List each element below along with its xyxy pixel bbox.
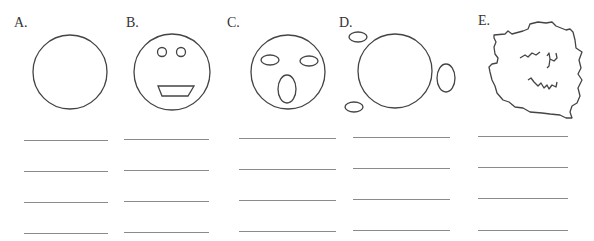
answer-line-d-4[interactable] <box>353 230 450 231</box>
displaced-mouth <box>437 64 455 92</box>
label-c: C. <box>227 16 240 30</box>
answer-line-e-1[interactable] <box>478 136 568 137</box>
left-eye <box>261 55 279 65</box>
scribble-1 <box>520 52 540 58</box>
answer-line-a-1[interactable] <box>24 140 108 141</box>
left-eye <box>158 48 167 57</box>
figure-b-smiling-face <box>134 34 210 110</box>
answer-line-b-3[interactable] <box>124 201 209 202</box>
answer-line-c-2[interactable] <box>239 169 336 170</box>
displaced-eye-bottom <box>345 102 363 112</box>
label-b: B. <box>126 16 139 30</box>
answer-line-a-3[interactable] <box>24 202 108 203</box>
answer-line-c-1[interactable] <box>239 138 336 139</box>
answer-line-a-2[interactable] <box>24 171 108 172</box>
blob-outline <box>489 22 582 118</box>
scribble-3 <box>528 78 557 89</box>
figure-d-scattered-features <box>345 32 455 112</box>
answer-line-b-1[interactable] <box>124 139 209 140</box>
face-outline <box>358 34 432 108</box>
face-matching-worksheet: A. B. C. D. E. <box>0 0 594 241</box>
answer-line-c-3[interactable] <box>239 200 336 201</box>
answer-line-a-4[interactable] <box>24 233 108 234</box>
label-a: A. <box>14 16 28 30</box>
circle-outline <box>33 35 107 109</box>
answer-line-b-4[interactable] <box>124 232 209 233</box>
answer-line-b-2[interactable] <box>124 170 209 171</box>
answer-line-c-4[interactable] <box>239 231 336 232</box>
answer-line-e-2[interactable] <box>478 167 568 168</box>
label-e: E. <box>478 14 490 28</box>
face-outline <box>251 35 325 109</box>
answer-line-d-1[interactable] <box>353 137 450 138</box>
figure-e-scribbled-blob <box>489 22 582 118</box>
trapezoid-mouth <box>158 86 194 96</box>
figure-c-surprised-face <box>251 35 325 109</box>
open-mouth <box>278 75 296 103</box>
figures-canvas <box>0 0 594 241</box>
figure-a-plain-circle <box>33 35 107 109</box>
answer-line-e-4[interactable] <box>478 230 568 231</box>
right-eye <box>177 48 186 57</box>
face-outline <box>134 34 210 110</box>
label-d: D. <box>339 16 353 30</box>
answer-line-d-2[interactable] <box>353 168 450 169</box>
displaced-eye-top <box>349 32 367 42</box>
answer-line-d-3[interactable] <box>353 199 450 200</box>
answer-line-e-3[interactable] <box>478 198 568 199</box>
scribble-2 <box>547 53 557 68</box>
right-eye <box>300 56 318 66</box>
